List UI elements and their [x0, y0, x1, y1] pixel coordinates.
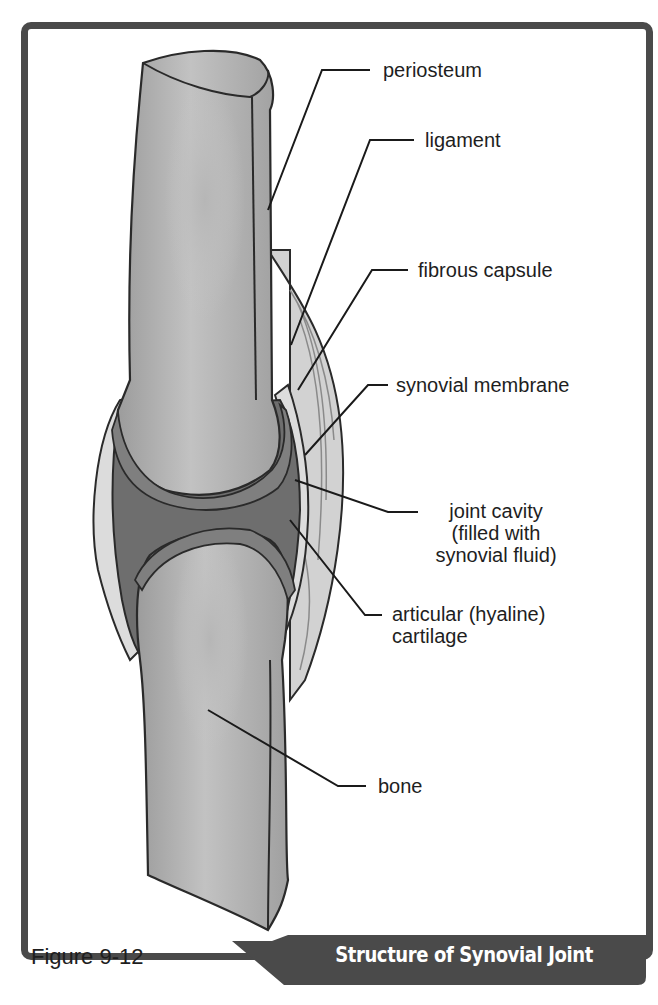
label-fibrous-capsule: fibrous capsule [418, 259, 553, 281]
figure-title: Structure of Synovial Joint [325, 942, 604, 967]
label-periosteum: periosteum [383, 59, 482, 81]
articular-cartilage-line-1: articular (hyaline) [392, 603, 545, 625]
joint-cavity-line-1: joint cavity [414, 500, 578, 522]
figure-number: Figure 9-12 [31, 944, 144, 970]
articular-cartilage-line-2: cartilage [392, 625, 545, 647]
joint-cavity-line-3: synovial fluid) [414, 544, 578, 566]
label-articular-cartilage: articular (hyaline) cartilage [392, 603, 545, 647]
label-joint-cavity: joint cavity (filled with synovial fluid… [414, 500, 578, 566]
joint-cavity-line-2: (filled with [414, 522, 578, 544]
label-synovial-membrane: synovial membrane [396, 374, 569, 396]
label-ligament: ligament [425, 129, 501, 151]
label-bone: bone [378, 775, 423, 797]
figure-title-tab: Structure of Synovial Joint [232, 935, 646, 987]
